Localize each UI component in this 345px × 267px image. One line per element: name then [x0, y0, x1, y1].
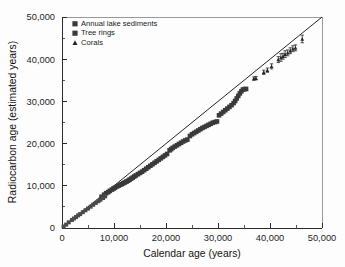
x-tick-label: 10,000 [100, 233, 128, 243]
y-tick-label: 30,000 [27, 97, 55, 107]
legend-marker-square [72, 21, 77, 26]
y-tick-label: 20,000 [27, 139, 55, 149]
x-axis-title: Calendar age (years) [143, 248, 241, 259]
y-tick-label: 10,000 [27, 181, 55, 191]
legend-marker-square [72, 31, 77, 36]
data-point-lake-sediment [244, 87, 249, 92]
legend-label: Corals [81, 38, 103, 47]
data-point-tree-ring [103, 194, 107, 198]
y-tick-label: 0 [50, 223, 55, 233]
legend-label: Tree rings [81, 28, 115, 37]
y-axis-title: Radiocarbon age (estimated years) [7, 41, 18, 203]
figure-container: 010,00020,00030,00040,00050,000 010,0002… [0, 0, 345, 267]
y-tick-label: 40,000 [27, 55, 55, 65]
x-tick-label: 30,000 [204, 233, 232, 243]
x-tick-label: 0 [59, 233, 64, 243]
y-tick-label: 50,000 [27, 12, 55, 22]
x-tick-label: 20,000 [152, 233, 180, 243]
data-point-lake-sediment [215, 119, 220, 124]
radiocarbon-calibration-chart: 010,00020,00030,00040,00050,000 010,0002… [0, 0, 345, 267]
x-tick-label: 50,000 [308, 233, 336, 243]
legend-label: Annual lake sediments [81, 19, 158, 28]
x-tick-label: 40,000 [256, 233, 284, 243]
